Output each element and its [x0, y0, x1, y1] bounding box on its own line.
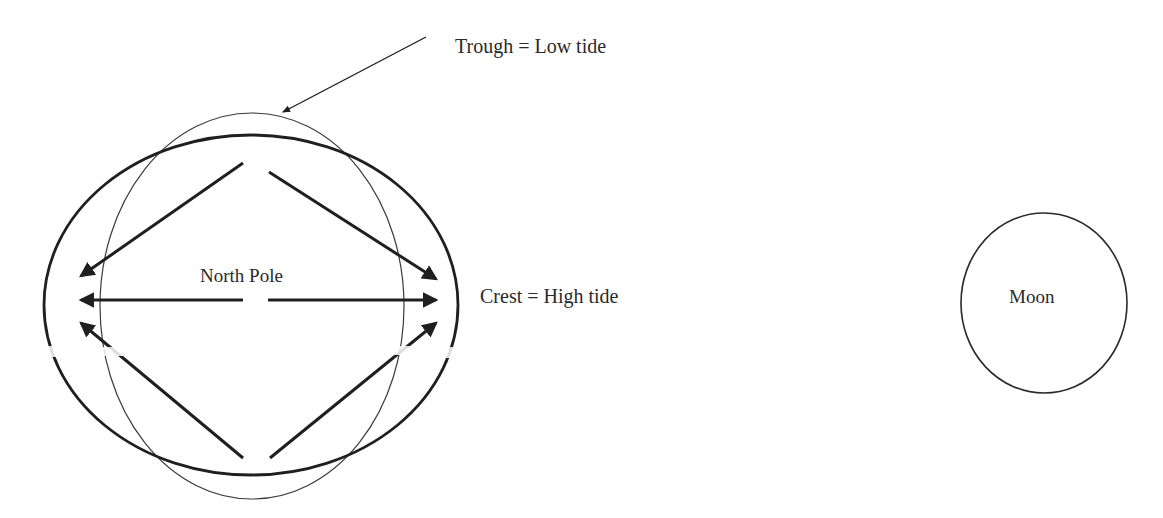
arrow-lower-right	[270, 323, 436, 458]
arrow-upper-left	[81, 163, 243, 276]
arrow-upper-right	[269, 172, 436, 279]
crest-label: Crest = High tide	[480, 285, 619, 308]
tidal-bulge-ellipse	[44, 135, 458, 475]
arrow-lower-left	[81, 323, 243, 458]
earth-circle	[100, 113, 404, 499]
trough-leader-arrow	[283, 37, 426, 112]
trough-label: Trough = Low tide	[455, 35, 606, 58]
moon-label: Moon	[1009, 286, 1055, 307]
tide-diagram: Trough = Low tide Crest = High tide Nort…	[0, 0, 1163, 518]
north-pole-label: North Pole	[200, 265, 283, 286]
